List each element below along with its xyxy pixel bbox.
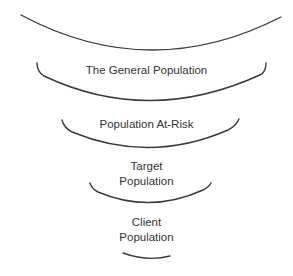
funnel-arc-5 [123,253,170,258]
level-population-at-risk: Population At-Risk [0,117,293,132]
level-general-population: The General Population [0,63,293,78]
level-client-population: Client Population [0,215,293,245]
funnel-diagram: The General Population Population At-Ris… [0,0,293,276]
funnel-arc-1 [21,15,281,50]
level-target-population: Target Population [0,159,293,189]
